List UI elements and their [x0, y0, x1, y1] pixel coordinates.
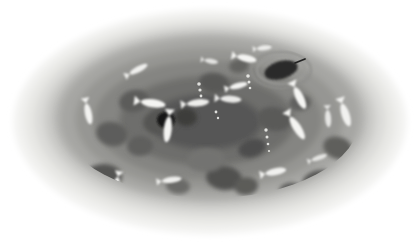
- bubble: [215, 111, 218, 114]
- bubble: [217, 117, 219, 119]
- bubble: [249, 87, 252, 90]
- bubble: [246, 74, 250, 78]
- pond-illustration: [0, 0, 420, 248]
- bubble: [201, 101, 203, 103]
- bubble: [266, 136, 269, 139]
- bubble: [268, 150, 270, 152]
- image-canvas: [0, 0, 420, 248]
- bubble: [198, 88, 201, 91]
- bubble: [248, 81, 251, 84]
- bubble: [264, 128, 267, 131]
- bubble: [197, 82, 201, 86]
- bubble: [200, 95, 203, 98]
- bubble: [267, 143, 270, 146]
